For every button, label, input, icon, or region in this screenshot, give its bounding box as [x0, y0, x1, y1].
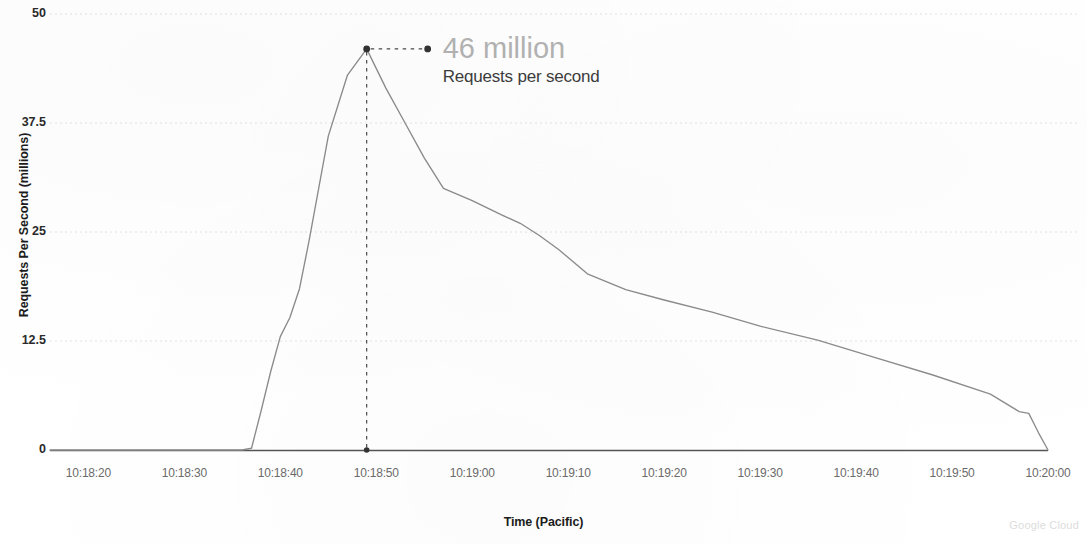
x-tick-label: 10:19:20: [616, 466, 712, 480]
baseline-marker-dot: [364, 447, 370, 453]
peak-annotation: 46 million Requests per second: [443, 31, 743, 88]
x-tick-label: 10:18:20: [40, 466, 136, 480]
data-series-line: [50, 49, 1048, 450]
y-tick-label: 0: [0, 442, 46, 456]
x-tick-label: 10:19:30: [712, 466, 808, 480]
requests-per-second-chart: Requests Per Second (millions) 5037.5251…: [0, 0, 1087, 544]
x-tick-label: 10:19:00: [424, 466, 520, 480]
x-axis-title: Time (Pacific): [0, 515, 1087, 529]
peak-marker-dot: [363, 45, 370, 52]
x-tick-label: 10:18:30: [136, 466, 232, 480]
x-tick-label: 10:18:40: [232, 466, 328, 480]
google-cloud-watermark: Google Cloud: [1009, 519, 1079, 531]
y-tick-label: 37.5: [0, 115, 46, 129]
y-tick-label: 50: [0, 6, 46, 20]
annotation-value-text: 46 million: [443, 31, 743, 65]
y-tick-label: 25: [0, 224, 46, 238]
x-tick-label: 10:19:50: [904, 466, 1000, 480]
x-tick-label: 10:20:00: [1000, 466, 1087, 480]
x-tick-label: 10:19:10: [520, 466, 616, 480]
x-tick-label: 10:18:50: [328, 466, 424, 480]
annotation-caption-text: Requests per second: [443, 66, 743, 88]
annotation-anchor-dot: [424, 45, 431, 52]
y-tick-label: 12.5: [0, 333, 46, 347]
x-tick-label: 10:19:40: [808, 466, 904, 480]
